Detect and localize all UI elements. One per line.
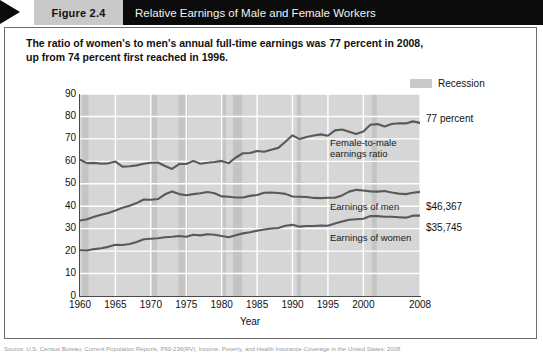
figure-number-tag: Figure 2.4 [34,0,123,25]
chart-svg [80,94,420,296]
x-axis-line [79,296,421,297]
subtitle-line-2: up from 74 percent first reached in 1996… [26,50,456,64]
y-tick-80: 80 [42,110,76,121]
y-axis-ticks: 0102030405060708090 [40,94,76,296]
y-tick-20: 20 [42,245,76,256]
x-tick-1995: 1995 [317,299,339,310]
end-label-men: $46,367 [426,201,462,212]
x-tick-1980: 1980 [211,299,233,310]
y-tick-60: 60 [42,155,76,166]
x-axis-label: Year [80,316,420,327]
x-tick-2008: 2008 [409,299,431,310]
x-tick-1990: 1990 [281,299,303,310]
figure-banner: Figure 2.4 Relative Earnings of Male and… [0,0,543,25]
y-tick-90: 90 [42,88,76,99]
chart-legend: Recession [410,78,485,89]
subtitle-line-1: The ratio of women's to men's annual ful… [26,36,456,50]
figure-root: Figure 2.4 Relative Earnings of Male and… [0,0,543,355]
annotation-men: Earnings of men [330,201,399,212]
annotation-ratio-line-2: earnings ratio [330,148,397,159]
figure-subtitle: The ratio of women's to men's annual ful… [26,36,456,64]
y-axis-line [79,94,80,297]
annotation-ratio: Female-to-male earnings ratio [330,137,397,159]
y-tick-50: 50 [42,177,76,188]
annotation-ratio-line-1: Female-to-male [330,137,397,148]
y-tick-10: 10 [42,267,76,278]
plot-area [80,94,420,296]
x-tick-1975: 1975 [175,299,197,310]
y-tick-70: 70 [42,132,76,143]
y-tick-30: 30 [42,222,76,233]
x-tick-1985: 1985 [246,299,268,310]
legend-swatch-recession [410,79,432,88]
source-note: Source: U.S. Census Bureau, Current Popu… [4,346,537,354]
y-tick-40: 40 [42,200,76,211]
chevron-icon [0,0,34,25]
end-label-women: $35,745 [426,222,462,233]
x-tick-2000: 2000 [352,299,374,310]
end-label-ratio: 77 percent [426,113,473,124]
annotation-women: Earnings of women [330,232,411,243]
x-tick-1965: 1965 [104,299,126,310]
legend-label-recession: Recession [438,78,485,89]
figure-title: Relative Earnings of Male and Female Wor… [135,0,376,25]
x-tick-1960: 1960 [69,299,91,310]
x-tick-1970: 1970 [140,299,162,310]
